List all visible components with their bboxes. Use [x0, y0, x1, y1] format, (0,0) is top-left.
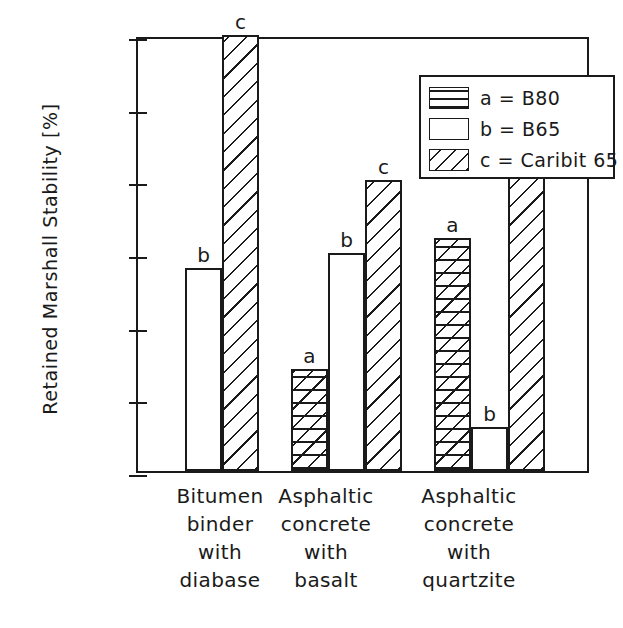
x-axis-label-line: with	[384, 538, 554, 566]
legend-item-a: a = B80	[429, 82, 613, 113]
y-axis-tick	[129, 475, 147, 477]
bar-basalt-b	[328, 253, 365, 471]
chart-figure: Retained Marshall Stability [%] 70758085…	[0, 0, 623, 628]
legend-swatch-a	[429, 87, 469, 109]
bar-quartzite-b	[471, 427, 508, 471]
x-axis-label-line: concrete	[384, 510, 554, 538]
bar-label-b: b	[197, 243, 210, 267]
y-axis-tick	[129, 402, 147, 404]
bar-label-c: c	[235, 10, 246, 34]
legend-swatch-b	[429, 118, 469, 140]
legend: a = B80b = B65c = Caribit 65	[419, 75, 615, 179]
bar-quartzite-a	[434, 238, 471, 471]
bar-label-b: b	[340, 228, 353, 252]
y-axis-title: Retained Marshall Stability [%]	[39, 39, 61, 479]
x-axis-label-3: Asphalticconcretewithquartzite	[384, 482, 554, 594]
legend-label-b: b = B65	[480, 118, 561, 140]
bar-label-b: b	[483, 402, 496, 426]
bar-basalt-c	[365, 180, 402, 471]
y-axis-tick	[129, 39, 147, 41]
legend-item-b: b = B65	[429, 113, 613, 144]
x-axis-label-line: quartzite	[384, 566, 554, 594]
bar-label-c: c	[378, 155, 389, 179]
y-axis-tick	[129, 330, 147, 332]
bar-label-a: a	[303, 344, 315, 368]
x-axis-label-line: Asphaltic	[384, 482, 554, 510]
plot-area: bcabcabc a = B80b = B65c = Caribit 65	[136, 37, 589, 473]
bar-label-a: a	[446, 213, 458, 237]
legend-label-c: c = Caribit 65	[480, 149, 618, 171]
y-axis-tick	[129, 184, 147, 186]
legend-item-c: c = Caribit 65	[429, 144, 613, 175]
legend-label-a: a = B80	[480, 87, 560, 109]
y-axis-tick	[129, 257, 147, 259]
y-axis-tick	[129, 112, 147, 114]
bar-basalt-a	[291, 369, 328, 471]
bar-diabase-b	[185, 268, 222, 471]
legend-swatch-c	[429, 149, 469, 171]
bar-diabase-c	[222, 35, 259, 471]
